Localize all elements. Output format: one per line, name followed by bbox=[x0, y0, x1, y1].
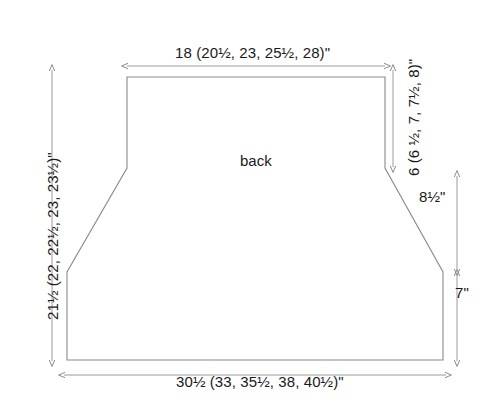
piece-name-label: back bbox=[240, 152, 272, 169]
top-width-label: 18 (20½, 23, 25½, 28)" bbox=[175, 44, 330, 61]
schematic-diagram: 18 (20½, 23, 25½, 28)" 30½ (33, 35½, 38,… bbox=[0, 0, 494, 414]
lower-side-label: 7" bbox=[455, 284, 469, 301]
garment-outline bbox=[67, 77, 443, 360]
armhole-depth-label: 6 (6 ½, 7, 7½, 8)" bbox=[405, 59, 422, 176]
total-height-label: 21½ (22, 22½, 23, 23½)" bbox=[44, 152, 61, 320]
upper-side-label: 8½" bbox=[419, 188, 445, 205]
bottom-width-label: 30½ (33, 35½, 38, 40½)" bbox=[176, 373, 344, 390]
